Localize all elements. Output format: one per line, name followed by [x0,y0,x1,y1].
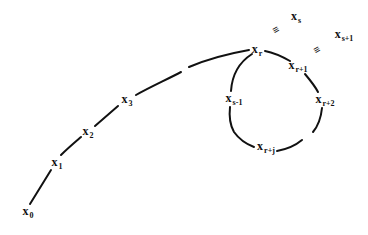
tail-segment-3 [136,72,181,95]
cycle-path [230,51,322,151]
cycle-segment-1 [305,74,318,92]
node-label-xr-plus-2: xr+2 [315,93,334,107]
tail-segment-2 [95,106,118,126]
node-label-xr-plus-j: xr+j [257,140,275,154]
node-label-xr-plus-1: xr+1 [288,59,307,73]
tail-segment-1 [61,137,81,155]
node-label-x0: x0 [23,205,34,219]
edges-layer [0,0,368,235]
node-label-x3: x3 [122,93,133,107]
cycle-segment-0 [265,51,290,61]
node-label-xs-minus-1: xs-1 [226,92,243,106]
tail-path [30,50,249,204]
rho-sequence-diagram: x0 x1 x2 x3 xr xr+1 xr+2 xr+j xs-1 xs xs… [0,0,368,235]
cycle-segment-3 [277,140,302,151]
tail-segment-0 [30,170,51,204]
node-label-x1: x1 [52,156,63,170]
cycle-segment-2 [313,108,322,132]
node-label-xs-plus-1: xs+1 [335,28,354,42]
node-label-x2: x2 [83,125,94,139]
node-label-xr: xr [252,43,263,57]
cycle-segment-5 [231,54,252,91]
node-label-xs: xs [291,10,301,24]
cycle-segment-4 [230,107,254,147]
